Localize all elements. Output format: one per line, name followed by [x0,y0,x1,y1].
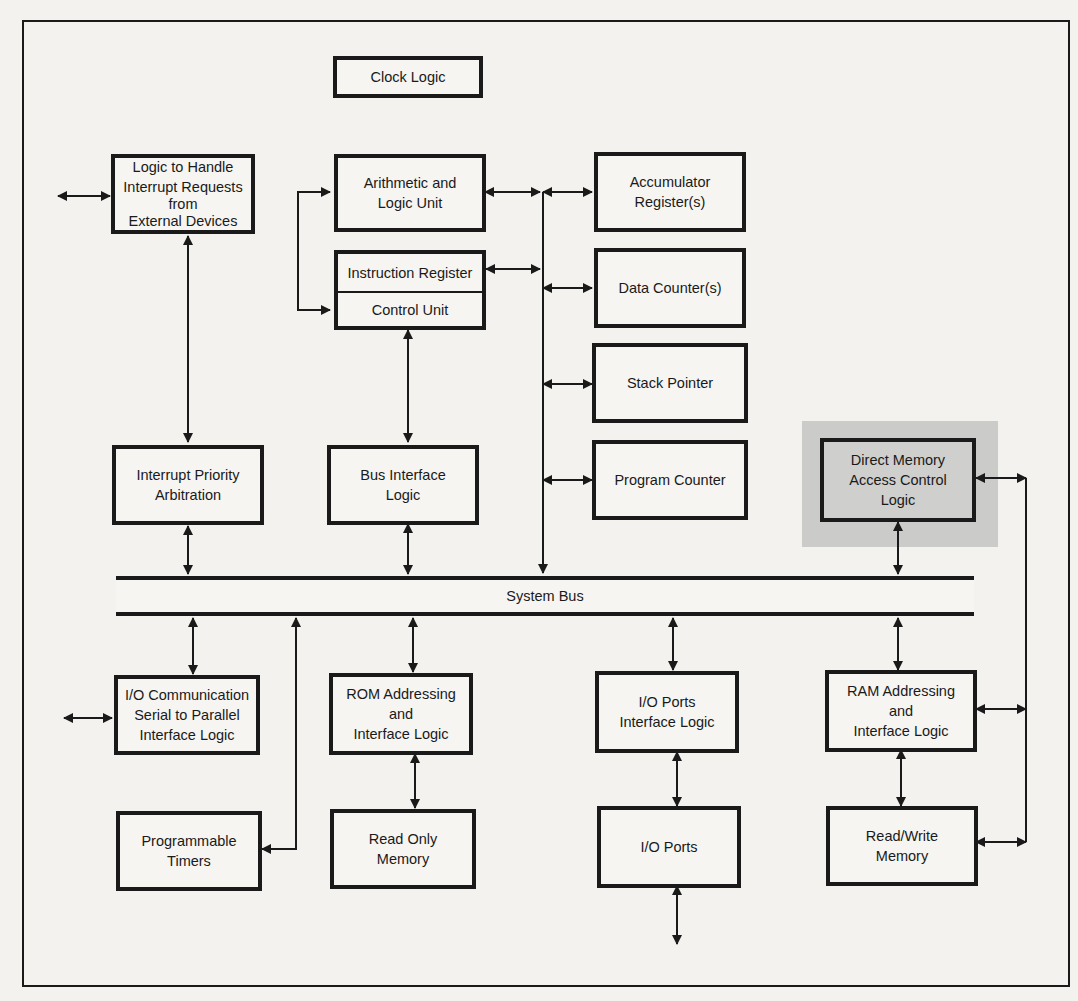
block-label: Logic [881,490,916,510]
block-label: Data Counter(s) [618,278,721,298]
read-only-memory-block: Read Only Memory [330,809,476,889]
block-label: Arbitration [155,485,221,505]
io-ports-interface-block: I/O Ports Interface Logic [595,671,739,753]
block-label: and [389,704,413,724]
program-counter-block: Program Counter [592,440,748,520]
block-label: Stack Pointer [627,373,713,393]
block-label: Interface Logic [853,721,948,741]
block-label: Register(s) [635,192,706,212]
instruction-register-label: Instruction Register [338,254,482,291]
data-counters-block: Data Counter(s) [594,248,746,328]
block-label: Interface Logic [353,724,448,744]
accumulator-block: Accumulator Register(s) [594,152,746,232]
block-label: and [889,701,913,721]
system-bus-label: System Bus [506,588,583,604]
programmable-timers-block: Programmable Timers [116,811,262,891]
instruction-register-control-unit-block: Instruction Register Control Unit [334,250,486,330]
alu-block: Arithmetic and Logic Unit [334,154,486,232]
clock-logic-block: Clock Logic [333,56,483,98]
block-label: Read Only [369,829,438,849]
block-label: Interface Logic [139,725,234,745]
block-label: RAM Addressing [847,681,955,701]
block-label: Clock Logic [371,67,446,87]
dma-control-block: Direct Memory Access Control Logic [820,438,976,522]
interrupt-priority-block: Interrupt Priority Arbitration [112,445,264,525]
interrupt-request-logic-block: Logic to Handle Interrupt Requests from … [111,154,255,234]
io-ports-block: I/O Ports [597,806,741,888]
block-label: Logic to Handle [133,157,234,177]
block-label: External Devices [129,211,238,231]
block-label: Accumulator [630,172,711,192]
block-label: Interrupt Priority [136,465,239,485]
io-communication-block: I/O Communication Serial to Parallel Int… [114,675,260,755]
block-label: Arithmetic and [364,173,457,193]
block-label: Logic [386,485,421,505]
block-label: Memory [377,849,429,869]
block-label: Access Control [849,470,947,490]
block-label: Read/Write [866,826,938,846]
block-label: Direct Memory [851,450,945,470]
block-label: I/O Communication [125,685,249,705]
bus-interface-block: Bus Interface Logic [327,445,479,525]
stack-pointer-block: Stack Pointer [592,343,748,423]
control-unit-label: Control Unit [338,293,482,326]
block-label: I/O Ports [640,837,697,857]
rom-addressing-block: ROM Addressing and Interface Logic [329,673,473,755]
block-label: Bus Interface [360,465,445,485]
block-label: Interrupt Requests [123,177,242,197]
block-label: Interface Logic [619,712,714,732]
ram-addressing-block: RAM Addressing and Interface Logic [825,670,977,752]
block-label: from [169,197,198,211]
block-label: Programmable [141,831,236,851]
block-label: I/O Ports [638,692,695,712]
block-label: Timers [167,851,211,871]
read-write-memory-block: Read/Write Memory [826,806,978,886]
block-label: Logic Unit [378,193,442,213]
system-bus: System Bus [116,576,974,616]
block-label: Program Counter [614,470,725,490]
block-label: ROM Addressing [346,684,456,704]
block-label: Serial to Parallel [134,705,240,725]
block-label: Memory [876,846,928,866]
